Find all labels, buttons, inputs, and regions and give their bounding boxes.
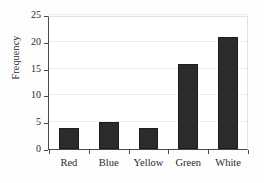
gridline	[49, 14, 247, 15]
x-axis-label: Blue	[89, 157, 129, 168]
bar-slot	[89, 16, 129, 149]
y-axis-tick-mark	[44, 43, 48, 44]
y-axis-tick-label: 25	[31, 9, 41, 20]
bar-chart: Frequency 0510152025 RedBlueYellowGreenW…	[0, 0, 264, 183]
x-axis-labels: RedBlueYellowGreenWhite	[49, 157, 248, 168]
y-axis-tick-label: 5	[36, 116, 41, 127]
y-axis-tick-mark	[44, 70, 48, 71]
y-axis-tick-mark	[44, 16, 48, 17]
bar[interactable]	[218, 37, 238, 149]
x-axis-tick-mark	[49, 150, 50, 154]
y-axis-tick-mark	[44, 150, 48, 151]
x-axis-label: White	[208, 157, 248, 168]
x-axis-tick-mark	[248, 150, 249, 154]
x-axis-tick-mark	[168, 150, 169, 154]
bar-slot	[129, 16, 169, 149]
bar[interactable]	[139, 128, 159, 149]
y-axis-tick-label: 10	[31, 89, 41, 100]
y-axis-tick-mark	[44, 96, 48, 97]
y-axis: 0510152025	[0, 16, 48, 150]
x-axis-tick-mark	[129, 150, 130, 154]
bar[interactable]	[59, 128, 79, 149]
x-axis-tick-mark	[208, 150, 209, 154]
bar-slot	[49, 16, 89, 149]
bar-slot	[208, 16, 248, 149]
x-axis-label: Yellow	[129, 157, 169, 168]
y-axis-tick-label: 20	[31, 36, 41, 47]
bar-slot	[168, 16, 208, 149]
bars-container	[49, 16, 248, 149]
x-axis-ticks	[49, 150, 248, 155]
bar[interactable]	[99, 122, 119, 149]
y-axis-tick-mark	[44, 123, 48, 124]
x-axis-label: Green	[168, 157, 208, 168]
x-axis-tick-mark	[89, 150, 90, 154]
bar[interactable]	[178, 64, 198, 149]
y-axis-tick-label: 0	[36, 143, 41, 154]
y-axis-tick-label: 15	[31, 63, 41, 74]
x-axis-label: Red	[49, 157, 89, 168]
